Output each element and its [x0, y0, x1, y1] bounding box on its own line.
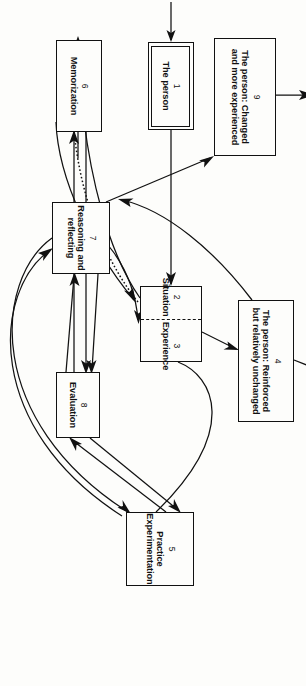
edge-5-to-3 [156, 362, 212, 512]
edge-5-to-8 [69, 437, 166, 512]
node-4-number: 4 [273, 359, 282, 364]
node-9-label: The person: Changed and more experienced [229, 39, 250, 155]
diagram-stage: 1 The person 2 Situation 3 Experience 4 … [0, 0, 306, 686]
edge-7-to-9 [106, 156, 214, 202]
node-situation-experience[interactable]: 2 Situation 3 Experience [140, 286, 202, 362]
edge-8-to-5 [90, 438, 181, 513]
edge-3-to-4 [202, 332, 239, 350]
node-3-half: 3 Experience [141, 320, 201, 373]
edge-7-to-8 [87, 274, 99, 374]
node-2-label: Situation [161, 276, 171, 319]
edge-9-to-out [276, 90, 306, 100]
node-1-inner: 1 The person [152, 46, 191, 127]
node-person-changed[interactable]: 9 The person: Changed and more experienc… [214, 38, 276, 156]
node-8-label: Evaluation [68, 380, 78, 430]
node-3-number: 3 [173, 344, 182, 349]
node-6-label: Memorization [69, 55, 79, 118]
node-7-number: 7 [88, 236, 97, 241]
node-2-number: 2 [173, 295, 182, 300]
edge-in-to-1 [167, 2, 176, 42]
edge-1-to-2 [166, 130, 176, 286]
node-reasoning-and-reflecting[interactable]: 7 Reasoning and reflecting [52, 202, 110, 274]
node-memorization[interactable]: 6 Memorization [56, 40, 102, 132]
node-6-number: 6 [81, 84, 90, 89]
diagram-canvas: 1 The person 2 Situation 3 Experience 4 … [0, 0, 306, 686]
node-2-half: 2 Situation [141, 276, 201, 319]
edge-4-to-out [294, 360, 306, 372]
node-the-person[interactable]: 1 The person [148, 42, 194, 130]
node-5-label: Practice Experimentation [144, 511, 165, 586]
node-evaluation[interactable]: 8 Evaluation [56, 372, 100, 438]
node-1-label: The person [161, 59, 171, 112]
node-3-label: Experience [161, 320, 171, 373]
node-practice-experimentation[interactable]: 5 Practice Experimentation [126, 512, 194, 586]
node-9-number: 9 [252, 95, 261, 100]
node-5-number: 5 [167, 547, 176, 552]
node-person-reinforced[interactable]: 4 The person: Reinforced but relatively … [238, 300, 294, 422]
node-8-number: 8 [80, 403, 89, 408]
node-4-label: The person: Reinforced but relatively un… [250, 301, 271, 421]
edge-8-to-7 [66, 272, 80, 372]
node-1-number: 1 [173, 84, 182, 89]
node-7-label: Reasoning and reflecting [65, 203, 86, 273]
